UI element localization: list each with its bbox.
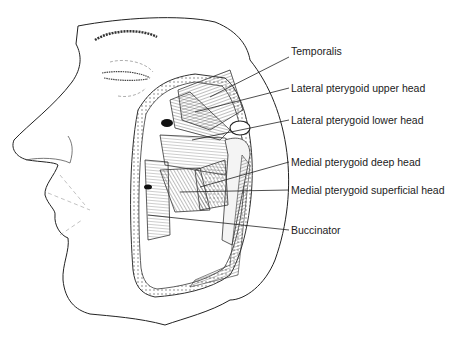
- eyebrow: [95, 31, 157, 40]
- buccinator-muscle: [145, 160, 170, 240]
- eye: [102, 72, 150, 81]
- nostril: [26, 136, 72, 163]
- label-medial-pterygoid-superficial-head: Medial pterygoid superficial head: [291, 184, 445, 196]
- label-lateral-pterygoid-upper-head: Lateral pterygoid upper head: [291, 82, 425, 94]
- label-lateral-pterygoid-lower-head: Lateral pterygoid lower head: [291, 114, 424, 126]
- condyle: [230, 121, 250, 135]
- label-temporalis: Temporalis: [291, 45, 342, 57]
- anatomy-figure: Temporalis Lateral pterygoid upper head …: [0, 0, 455, 338]
- label-medial-pterygoid-deep-head: Medial pterygoid deep head: [291, 156, 421, 168]
- face-drawing: [0, 0, 455, 338]
- label-buccinator: Buccinator: [291, 224, 341, 236]
